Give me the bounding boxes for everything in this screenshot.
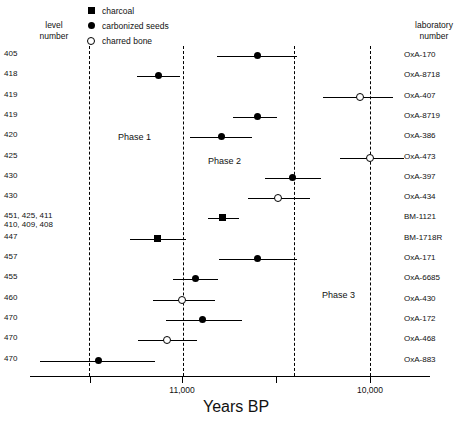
column-header-lab-line1: laboratory (400, 20, 468, 31)
table-row[interactable]: 425OxA-473 (0, 151, 472, 171)
level-number-label: 419 (4, 110, 76, 119)
axis-tick-3 (276, 376, 277, 383)
data-point-open-circle-icon[interactable] (356, 93, 364, 101)
data-point-open-circle-icon[interactable] (274, 194, 282, 202)
table-row[interactable]: 455OxA-6685 (0, 272, 472, 292)
axis-tick-4 (370, 376, 371, 383)
level-number-label: 457 (4, 252, 76, 261)
table-row[interactable]: 418OxA-8718 (0, 69, 472, 89)
column-header-laboratory-number: laboratory number (400, 20, 468, 42)
laboratory-number-label: OxA-468 (404, 334, 472, 343)
table-row[interactable]: 451, 425, 411410, 409, 408BM-1121 (0, 211, 472, 231)
laboratory-number-label: OxA-434 (404, 192, 472, 201)
axis-title: Years BP (0, 398, 472, 416)
x-axis: 11,00010,000 Years BP (0, 376, 472, 424)
table-row[interactable]: 430OxA-397 (0, 171, 472, 191)
table-row[interactable]: 470OxA-468 (0, 333, 472, 353)
legend-item-charcoal: charcoal (80, 4, 260, 17)
data-point-filled-circle-icon[interactable] (192, 275, 199, 282)
legend-label-charcoal: charcoal (102, 6, 134, 16)
column-header-lab-line2: number (400, 31, 468, 42)
level-number-label: 451, 425, 411410, 409, 408 (4, 211, 76, 229)
laboratory-number-label: OxA-8719 (404, 111, 472, 120)
table-row[interactable]: 405OxA-170 (0, 49, 472, 69)
column-header-level-number: level number (24, 20, 84, 42)
data-point-filled-circle-icon[interactable] (254, 52, 261, 59)
data-point-filled-circle-icon[interactable] (95, 357, 102, 364)
figure-root: charcoal carbonized seeds charred bone l… (0, 0, 472, 424)
level-number-label: 447 (4, 232, 76, 241)
laboratory-number-label: OxA-170 (404, 50, 472, 59)
axis-tick-2 (182, 376, 183, 383)
level-number-label: 430 (4, 191, 76, 200)
level-number-label: 418 (4, 69, 76, 78)
level-number-label: 460 (4, 293, 76, 302)
data-point-open-circle-icon[interactable] (163, 336, 171, 344)
axis-tick-label-10000: 10,000 (340, 385, 400, 395)
level-number-label: 430 (4, 171, 76, 180)
table-row[interactable]: 470OxA-172 (0, 313, 472, 333)
table-row[interactable]: 419OxA-8719 (0, 110, 472, 130)
level-number-label: 470 (4, 313, 76, 322)
column-header-level-line1: level (24, 20, 84, 31)
laboratory-number-label: OxA-6685 (404, 273, 472, 282)
laboratory-number-label: OxA-386 (404, 131, 472, 140)
laboratory-number-label: BM-1121 (404, 212, 472, 221)
table-row[interactable]: 419OxA-407 (0, 90, 472, 110)
legend-label-charred-bone: charred bone (102, 36, 152, 46)
data-point-filled-circle-icon[interactable] (218, 133, 225, 140)
legend-label-carbonized-seeds: carbonized seeds (102, 21, 169, 31)
table-row[interactable]: 460OxA-430 (0, 293, 472, 313)
filled-square-icon (80, 7, 102, 14)
level-number-label: 420 (4, 130, 76, 139)
laboratory-number-label: BM-1718R (404, 233, 472, 242)
level-number-label: 425 (4, 151, 76, 160)
table-row[interactable]: 447BM-1718R (0, 232, 472, 252)
laboratory-number-label: OxA-397 (404, 172, 472, 181)
data-point-filled-circle-icon[interactable] (289, 174, 296, 181)
laboratory-number-label: OxA-171 (404, 253, 472, 262)
table-row[interactable]: 430OxA-434 (0, 191, 472, 211)
data-point-open-circle-icon[interactable] (178, 296, 186, 304)
axis-tick-1 (90, 376, 91, 383)
laboratory-number-label: OxA-430 (404, 294, 472, 303)
laboratory-number-label: OxA-8718 (404, 70, 472, 79)
laboratory-number-label: OxA-883 (404, 355, 472, 364)
axis-tick-label-11000: 11,000 (152, 385, 212, 395)
column-header-level-line2: number (24, 31, 84, 42)
data-point-open-circle-icon[interactable] (366, 154, 374, 162)
legend-item-carbonized-seeds: carbonized seeds (80, 19, 260, 32)
data-point-filled-circle-icon[interactable] (199, 316, 206, 323)
data-point-filled-circle-icon[interactable] (155, 72, 162, 79)
data-point-filled-square-icon[interactable] (219, 214, 226, 221)
level-number-label: 470 (4, 333, 76, 342)
data-point-filled-circle-icon[interactable] (254, 255, 261, 262)
data-point-filled-circle-icon[interactable] (254, 113, 261, 120)
table-row[interactable]: 420OxA-386 (0, 130, 472, 150)
table-row[interactable]: 457OxA-171 (0, 252, 472, 272)
data-point-filled-square-icon[interactable] (154, 235, 161, 242)
laboratory-number-label: OxA-473 (404, 152, 472, 161)
laboratory-number-label: OxA-407 (404, 91, 472, 100)
level-number-label: 405 (4, 49, 76, 58)
laboratory-number-label: OxA-172 (404, 314, 472, 323)
level-number-label: 419 (4, 90, 76, 99)
table-row[interactable]: 470OxA-883 (0, 354, 472, 374)
legend: charcoal carbonized seeds charred bone (80, 4, 260, 49)
level-number-label: 455 (4, 272, 76, 281)
plot-area: Phase 1Phase 2Phase 3 405OxA-170418OxA-8… (0, 46, 472, 376)
